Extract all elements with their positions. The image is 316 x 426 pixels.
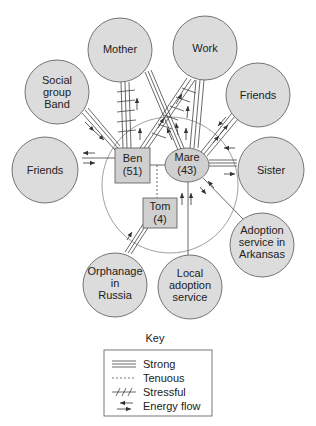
connection-mare-sister [209,148,237,174]
connection-ben-social [82,108,120,150]
system-label: Orphanage [87,265,142,277]
system-mother[interactable]: Mother [88,18,152,82]
family-member-ben[interactable]: Ben (51) [115,148,150,183]
ecomap-diagram: Mother Work Social group Band Friends Fr… [0,0,316,426]
legend-label: Tenuous [143,372,185,384]
system-label: group [43,86,71,98]
member-age: (51) [123,165,143,177]
legend-title: Key [146,332,165,344]
system-social-group-band[interactable]: Social group Band [25,60,89,124]
legend: Key Strong Tenuous Stressful [104,332,212,416]
system-label: Band [44,98,70,110]
member-name: Mare [174,151,199,163]
legend-label: Stressful [143,386,186,398]
legend-label: Strong [143,358,175,370]
system-label: Friends [27,164,64,176]
system-sister[interactable]: Sister [238,137,304,203]
system-label: Arkansas [239,248,285,260]
member-age: (4) [153,213,166,225]
system-work[interactable]: Work [173,16,237,80]
system-label: Social [42,74,72,86]
system-label: Friends [240,89,277,101]
system-label: Russia [98,289,133,301]
connection-mare-friends-right [201,113,238,156]
system-label: adoption [169,279,211,291]
system-orphanage-russia[interactable]: Orphanage in Russia [83,253,147,317]
system-label: service in [239,236,285,248]
system-label: Work [192,42,218,54]
legend-label: Energy flow [143,400,201,412]
system-adoption-arkansas[interactable]: Adoption service in Arkansas [230,213,294,277]
connection-mare-local [182,182,191,255]
member-age: (43) [177,164,197,176]
connection-mare-work [176,80,204,148]
system-friends-right[interactable]: Friends [226,63,290,127]
system-local-adoption[interactable]: Local adoption service [158,255,222,319]
system-label: Mother [103,43,138,55]
system-label: in [111,277,120,289]
family-member-mare[interactable]: Mare (43) [165,148,209,182]
system-friends-left[interactable]: Friends [12,137,78,203]
family-member-tom[interactable]: Tom (4) [143,198,177,228]
member-name: Ben [123,152,143,164]
member-name: Tom [150,200,171,212]
system-label: service [173,291,208,303]
system-label: Adoption [240,224,283,236]
system-label: Sister [257,164,285,176]
system-label: Local [177,267,203,279]
connection-ben-friends-left [82,153,115,163]
